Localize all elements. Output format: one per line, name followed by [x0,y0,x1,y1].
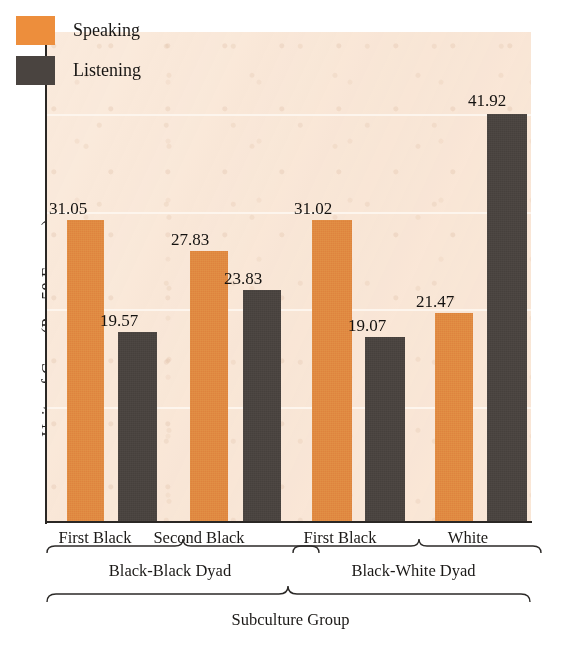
bar-listening-first-black-bw[interactable] [365,337,405,523]
value-label-31-02: 31.02 [282,199,344,219]
x-axis-title: Subculture Group [47,610,534,630]
bar-speaking-first-black-bw[interactable] [312,220,352,523]
value-label-41-92: 41.92 [456,91,518,111]
value-label-19-07: 19.07 [336,316,398,336]
group-label-black-white-dyad: Black-White Dyad [293,561,534,581]
bar-grain [365,337,405,523]
value-label-23-83: 23.83 [212,269,274,289]
tick-label-first-black-bw: First Black [281,528,399,548]
bar-grain [67,220,104,523]
bar-grain [118,332,157,523]
tick-label-white-bw: White [412,528,524,548]
y-axis-line [45,31,47,524]
legend-swatch-listening-icon [16,56,55,85]
bar-speaking-second-black-bb[interactable] [190,251,228,523]
value-label-21-47: 21.47 [404,292,466,312]
legend-item-speaking[interactable]: Speaking [16,16,141,45]
legend-item-listening[interactable]: Listening [16,56,141,85]
group-label-black-black-dyad: Black-Black Dyad [47,561,293,581]
bar-grain [190,251,228,523]
x-axis-line [45,521,532,523]
bar-grain [435,313,473,523]
gridline-40 [47,114,531,116]
tick-label-second-black-bb: Second Black [129,528,269,548]
bar-listening-white-bw[interactable] [487,114,527,523]
bar-chart-figure: Units of Gaze (Per 50 Frames) 31.05 19.5… [0,0,564,648]
legend-swatch-speaking-icon [16,16,55,45]
bar-listening-first-black-bb[interactable] [118,332,157,523]
value-label-19-57: 19.57 [88,311,150,331]
bar-grain [312,220,352,523]
bar-listening-second-black-bb[interactable] [243,290,281,523]
bar-grain [243,290,281,523]
value-label-31-05: 31.05 [37,199,99,219]
bar-grain [487,114,527,523]
legend-label-listening: Listening [73,60,141,81]
brace-subculture-group-icon [47,586,530,602]
legend: Speaking Listening [16,16,141,96]
bar-speaking-white-bw[interactable] [435,313,473,523]
value-label-27-83: 27.83 [159,230,221,250]
bar-speaking-first-black-bb[interactable] [67,220,104,523]
legend-label-speaking: Speaking [73,20,140,41]
